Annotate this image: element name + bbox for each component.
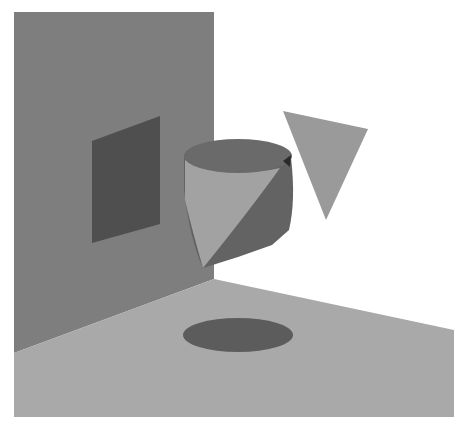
floor-shadow-ellipse — [183, 318, 293, 352]
floating-triangle — [283, 111, 368, 220]
rendered-scene — [0, 0, 468, 429]
cylinder — [184, 139, 293, 268]
